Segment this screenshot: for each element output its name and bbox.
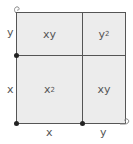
square-diagram: xy y2 x2 xy y x x y <box>0 0 133 144</box>
outer-border-bottom <box>16 123 126 124</box>
region-top-left-xy: xy <box>17 13 82 55</box>
region-top-right-y-squared: y2 <box>83 13 125 55</box>
side-label-left-y: y <box>7 27 14 38</box>
curl-handle-icon-top-left <box>12 4 22 14</box>
outer-border-right <box>125 12 126 124</box>
vertex-dot-bottom-middle <box>80 121 85 126</box>
vertex-dot-left-middle <box>14 53 19 58</box>
side-label-left-x: x <box>7 84 14 95</box>
vertex-dot-bottom-left <box>14 121 19 126</box>
vertical-divider <box>82 12 83 124</box>
horizontal-divider <box>16 55 126 56</box>
outer-border-left <box>16 12 17 124</box>
curl-handle-icon-bottom-right <box>119 118 131 130</box>
region-bottom-left-x-squared: x2 <box>17 56 82 123</box>
region-label: xy <box>97 83 110 96</box>
region-label: xy <box>43 28 56 41</box>
outer-border-top <box>16 12 126 13</box>
side-label-bottom-y: y <box>100 127 107 138</box>
side-label-bottom-x: x <box>46 127 53 138</box>
region-label-base: x <box>44 83 51 96</box>
region-bottom-right-xy: xy <box>83 56 125 123</box>
